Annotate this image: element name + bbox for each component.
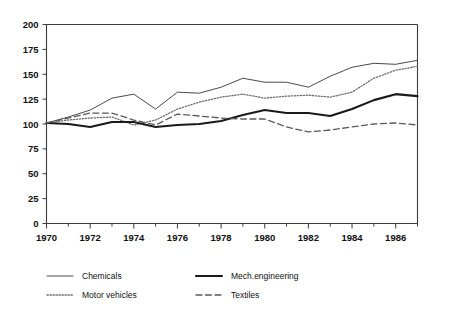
y-tick-label: 75 — [28, 143, 39, 154]
x-tick-label: 1980 — [254, 232, 275, 243]
y-tick-label: 25 — [28, 193, 39, 204]
series-lines — [47, 60, 418, 132]
x-tick-label: 1978 — [211, 232, 232, 243]
chart-legend: ChemicalsMech.engineeringMotor vehiclesT… — [47, 271, 299, 300]
legend-label-mech-engineering: Mech.engineering — [231, 271, 299, 281]
x-tick-label: 1984 — [341, 232, 363, 243]
line-chart: 0255075100125150175200 19701972197419761… — [0, 0, 451, 315]
y-tick-label: 150 — [23, 69, 39, 80]
legend-label-motor-vehicles: Motor vehicles — [82, 290, 137, 300]
y-tick-label: 0 — [33, 218, 38, 229]
x-tick-label: 1970 — [36, 232, 57, 243]
x-tick-label: 1972 — [80, 232, 101, 243]
x-tick-label: 1986 — [385, 232, 406, 243]
x-tick-label: 1974 — [123, 232, 145, 243]
y-tick-label: 100 — [23, 119, 39, 130]
chart-canvas: 0255075100125150175200 19701972197419761… — [0, 0, 451, 315]
y-tick-label: 175 — [23, 44, 40, 55]
legend-label-textiles: Textiles — [231, 290, 259, 300]
series-line-textiles — [47, 113, 418, 132]
x-tick-label: 1982 — [298, 232, 319, 243]
y-axis-ticks: 0255075100125150175200 — [23, 19, 47, 229]
x-axis-ticks: 197019721974197619781980198219841986 — [36, 224, 418, 243]
legend-label-chemicals: Chemicals — [82, 271, 122, 281]
series-line-motor-vehicles — [47, 66, 418, 125]
y-tick-label: 125 — [23, 94, 40, 105]
y-tick-label: 50 — [28, 168, 39, 179]
x-tick-label: 1976 — [167, 232, 188, 243]
series-line-mech-engineering — [47, 94, 418, 127]
y-tick-label: 200 — [23, 19, 39, 30]
